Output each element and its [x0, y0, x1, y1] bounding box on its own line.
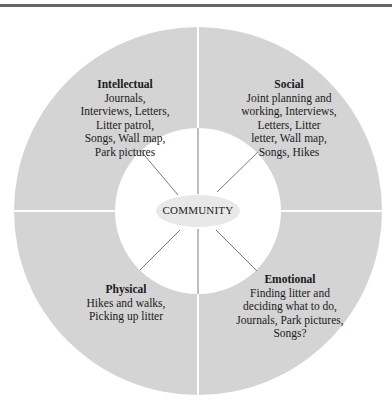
- quadrant-intellectual: Intellectual Journals, Interviews, Lette…: [62, 78, 188, 159]
- quadrant-title: Intellectual: [62, 78, 188, 92]
- quadrant-activities: Journals, Interviews, Letters, Litter pa…: [62, 92, 188, 160]
- quadrant-emotional: Emotional Finding litter and deciding wh…: [220, 273, 360, 341]
- quadrant-activities: Joint planning and working, Interviews, …: [224, 92, 354, 160]
- quadrant-activities: Hikes and walks, Picking up litter: [66, 297, 186, 324]
- quadrant-title: Physical: [66, 283, 186, 297]
- quadrant-title: Social: [224, 78, 354, 92]
- quadrant-physical: Physical Hikes and walks, Picking up lit…: [66, 283, 186, 324]
- center-label: COMMUNITY: [156, 202, 240, 218]
- quadrant-social: Social Joint planning and working, Inter…: [224, 78, 354, 159]
- quadrant-activities: Finding litter and deciding what to do, …: [220, 287, 360, 341]
- quadrant-title: Emotional: [220, 273, 360, 287]
